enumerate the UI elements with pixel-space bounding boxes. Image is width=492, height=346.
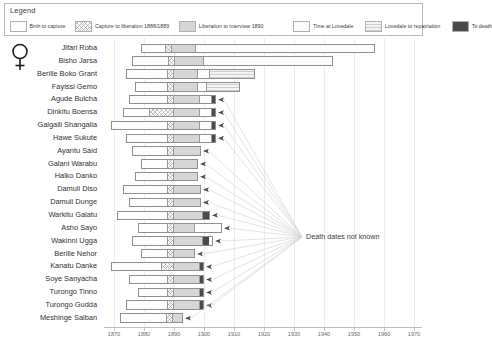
life-bar[interactable] — [129, 95, 216, 104]
life-bar[interactable] — [126, 69, 255, 78]
timeline-row[interactable]: Turongo Gudda — [0, 299, 429, 312]
legend-label-lovedale: Time at Lovedale — [313, 23, 353, 29]
row-track — [0, 183, 429, 196]
legend-item-birth[interactable]: Birth to capture — [10, 21, 65, 32]
row-track — [0, 68, 429, 81]
segment-liberation — [174, 160, 197, 167]
timeline-row[interactable]: Meshinge Salban — [0, 312, 429, 325]
segment-birth — [127, 70, 168, 77]
row-track — [0, 132, 429, 145]
life-bar[interactable] — [135, 172, 198, 181]
segment-birth — [130, 276, 168, 283]
legend-item-repat[interactable]: Lovedale to repatriation — [365, 21, 440, 32]
death-dates-annotation: Death dates not known — [306, 232, 380, 241]
timeline-row[interactable]: Bisho Jarsa — [0, 55, 429, 68]
segment-death — [200, 276, 203, 283]
life-bar[interactable] — [111, 121, 216, 130]
segment-liberation — [174, 135, 200, 142]
segment-liberation — [174, 147, 200, 154]
life-bar[interactable] — [141, 249, 195, 258]
legend-item-capture[interactable]: Capture to liberation 1888/1889 — [75, 21, 169, 32]
timeline-row[interactable]: Halko Danko — [0, 170, 429, 183]
segment-liberation — [174, 83, 198, 90]
segment-lovedale — [200, 96, 212, 103]
life-bar[interactable] — [126, 300, 204, 309]
segment-birth — [127, 301, 168, 308]
legend-item-death[interactable]: To death — [452, 21, 492, 32]
tick-label-1920: 1920 — [258, 331, 270, 337]
legend-panel: Legend Birth to captureCapture to libera… — [4, 3, 423, 36]
legend-swatch-liberation — [179, 21, 196, 32]
tick-label-1970: 1970 — [408, 331, 420, 337]
legend-items: Birth to captureCapture to liberation 18… — [10, 19, 419, 33]
legend-item-lovedale[interactable]: Time at Lovedale — [293, 21, 353, 32]
timeline-row[interactable]: Dinkitu Boensa — [0, 106, 429, 119]
life-bar[interactable] — [141, 159, 198, 168]
life-bar[interactable] — [126, 134, 216, 143]
row-track — [0, 248, 429, 261]
life-bar[interactable] — [129, 198, 201, 207]
legend-item-liberation[interactable]: Liberation to interview 1890 — [179, 21, 263, 32]
segment-lovedale — [198, 83, 207, 90]
segment-death — [212, 135, 215, 142]
timeline-row[interactable]: Galani Warabu — [0, 158, 429, 171]
row-track — [0, 55, 429, 68]
timeline-row[interactable]: Fayissi Gemo — [0, 81, 429, 94]
segment-liberation — [174, 96, 200, 103]
life-bar[interactable] — [141, 44, 375, 53]
segment-birth — [142, 45, 166, 52]
tick-label-1910: 1910 — [228, 331, 240, 337]
legend-swatch-birth — [10, 21, 27, 32]
life-bar[interactable] — [138, 288, 204, 297]
segment-capture — [162, 263, 174, 270]
tick-label-1930: 1930 — [288, 331, 300, 337]
segment-liberation — [174, 122, 200, 129]
timeline-row[interactable]: Warkitu Galatu — [0, 209, 429, 222]
life-bar[interactable] — [111, 262, 204, 271]
timeline-row[interactable]: Galgalli Shangalla — [0, 119, 429, 132]
tick-label-1880: 1880 — [138, 331, 150, 337]
life-bar[interactable] — [138, 223, 222, 232]
life-bar[interactable] — [132, 146, 201, 155]
life-bar[interactable] — [123, 185, 201, 194]
life-bar[interactable] — [123, 108, 216, 117]
segment-liberation — [174, 237, 203, 244]
x-axis: 1870188018901900191019201930194019501960… — [0, 327, 429, 346]
life-bar[interactable] — [135, 82, 240, 91]
life-bar[interactable] — [132, 236, 213, 245]
life-bar[interactable] — [132, 56, 333, 65]
timeline-row[interactable]: Jifari Roba — [0, 42, 429, 55]
tick-label-1940: 1940 — [318, 331, 330, 337]
row-track — [0, 81, 429, 94]
timeline-row[interactable]: Soye Sanyacha — [0, 273, 429, 286]
row-track — [0, 299, 429, 312]
life-bar[interactable] — [117, 211, 210, 220]
timeline-row[interactable]: Kanatu Danke — [0, 260, 429, 273]
segment-liberation — [174, 276, 200, 283]
timeline-row[interactable]: Hawe Sukute — [0, 132, 429, 145]
segment-birth — [142, 250, 168, 257]
row-track — [0, 209, 429, 222]
segment-birth — [118, 212, 168, 219]
segment-birth — [139, 224, 168, 231]
row-track — [0, 260, 429, 273]
row-track — [0, 170, 429, 183]
segment-death — [200, 289, 203, 296]
segment-birth — [136, 173, 168, 180]
segment-liberation — [174, 250, 194, 257]
tick-label-1870: 1870 — [108, 331, 120, 337]
life-bar[interactable] — [120, 313, 183, 322]
timeline-row[interactable]: Ayantu Said — [0, 145, 429, 158]
timeline-row[interactable]: Agude Bulcha — [0, 93, 429, 106]
timeline-row[interactable]: Damuli Dunge — [0, 196, 429, 209]
segment-lovedale — [200, 109, 212, 116]
timeline-row[interactable]: Turongo Tinno — [0, 286, 429, 299]
life-bar[interactable] — [129, 275, 204, 284]
timeline-row[interactable]: Damuli Diso — [0, 183, 429, 196]
legend-label-death: To death — [472, 23, 492, 29]
segment-liberation — [174, 224, 195, 231]
timeline-row[interactable]: Berille Nehor — [0, 248, 429, 261]
timeline-row[interactable]: Berille Boko Grant — [0, 68, 429, 81]
tick-label-1890: 1890 — [168, 331, 180, 337]
tick-label-1900: 1900 — [198, 331, 210, 337]
